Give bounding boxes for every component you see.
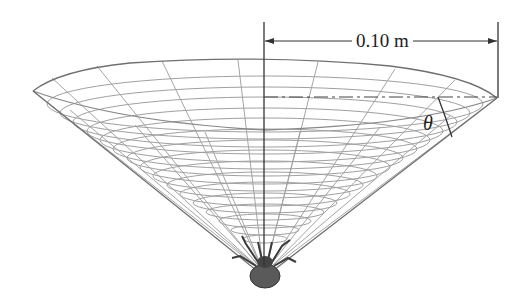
angle-label: θ bbox=[423, 112, 433, 134]
web-cone bbox=[33, 59, 497, 270]
dimension-label: 0.10 m bbox=[352, 30, 413, 52]
diagram-canvas bbox=[0, 0, 531, 298]
radial-threads bbox=[33, 60, 497, 268]
web-cone-diagram: 0.10 m θ bbox=[0, 0, 531, 298]
cone-outline bbox=[33, 59, 497, 270]
